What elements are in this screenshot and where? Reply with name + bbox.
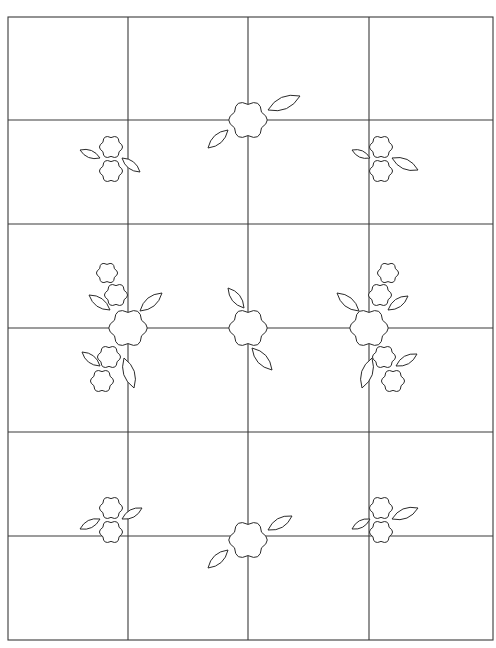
middle-center-flower: [228, 288, 272, 370]
leaf-icon: [396, 354, 417, 366]
middle-right-cluster: [337, 263, 417, 391]
flower-icon: [99, 498, 122, 519]
leaf-icon: [352, 150, 370, 159]
flower-icon: [109, 311, 148, 346]
flower-icon: [99, 137, 122, 158]
top-left-pair: [80, 137, 140, 182]
leaf-icon: [80, 149, 100, 158]
leaf-icon: [352, 519, 370, 529]
leaf-icon: [392, 157, 418, 170]
leaf-icon: [80, 519, 100, 530]
flower-icon: [99, 161, 122, 182]
flower-icon: [372, 347, 395, 368]
flower-icon: [377, 263, 398, 282]
flower-icon: [229, 523, 268, 558]
flower-icon: [229, 103, 268, 138]
flower-icon: [97, 347, 120, 368]
flower-icon: [90, 371, 113, 392]
flower-icon: [104, 285, 127, 306]
leaf-icon: [268, 95, 300, 111]
flower-icon: [369, 498, 392, 519]
leaf-icon: [252, 348, 272, 370]
bottom-center-flower: [208, 516, 292, 568]
leaf-icon: [82, 352, 100, 366]
leaf-icon: [122, 158, 140, 172]
flower-icon: [229, 311, 268, 346]
leaf-icon: [122, 508, 142, 519]
leaf-icon: [140, 293, 162, 311]
top-right-pair: [352, 137, 418, 182]
middle-left-cluster: [82, 263, 162, 391]
flower-icon: [96, 263, 117, 282]
top-center-flower: [208, 95, 300, 148]
flower-icon: [369, 137, 392, 158]
flower-icon: [369, 161, 392, 182]
leaf-icon: [361, 358, 374, 388]
flower-icon: [369, 522, 392, 543]
leaf-icon: [268, 516, 292, 530]
flower-icon: [350, 311, 389, 346]
leaf-icon: [392, 507, 418, 519]
flower-icon: [99, 522, 122, 543]
leaf-icon: [388, 296, 408, 310]
flower-icon: [368, 285, 391, 306]
leaf-icon: [208, 550, 228, 568]
leaf-icon: [228, 288, 244, 308]
motifs: [80, 95, 418, 568]
flower-icon: [381, 371, 404, 392]
quilt-pattern-diagram: [0, 0, 496, 648]
leaf-icon: [123, 358, 136, 388]
leaf-icon: [208, 130, 228, 148]
leaf-icon: [337, 293, 359, 311]
